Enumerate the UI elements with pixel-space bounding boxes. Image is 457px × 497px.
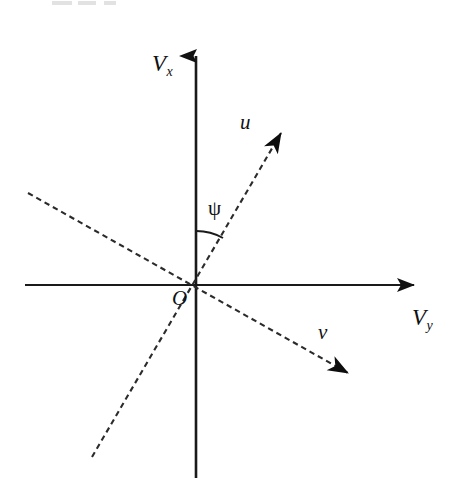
vector-diagram-figure: Vx Vy O u v ψ [0, 0, 457, 497]
diagram-canvas [0, 0, 457, 497]
axis-label-vx-main: V [152, 51, 166, 76]
axis-label-vy: Vy [412, 306, 433, 333]
axis-label-vy-main: V [412, 305, 426, 330]
axis-label-vy-sub: y [427, 318, 433, 333]
angle-label-psi: ψ [208, 198, 221, 219]
axis-label-vx: Vx [152, 52, 173, 79]
axis-label-vx-sub: x [167, 64, 173, 79]
vector-label-v: v [318, 322, 327, 343]
origin-label: O [172, 288, 187, 309]
vector-label-u: u [240, 112, 251, 133]
angle-arc-psi [196, 231, 223, 238]
vector-line-v [28, 193, 348, 373]
